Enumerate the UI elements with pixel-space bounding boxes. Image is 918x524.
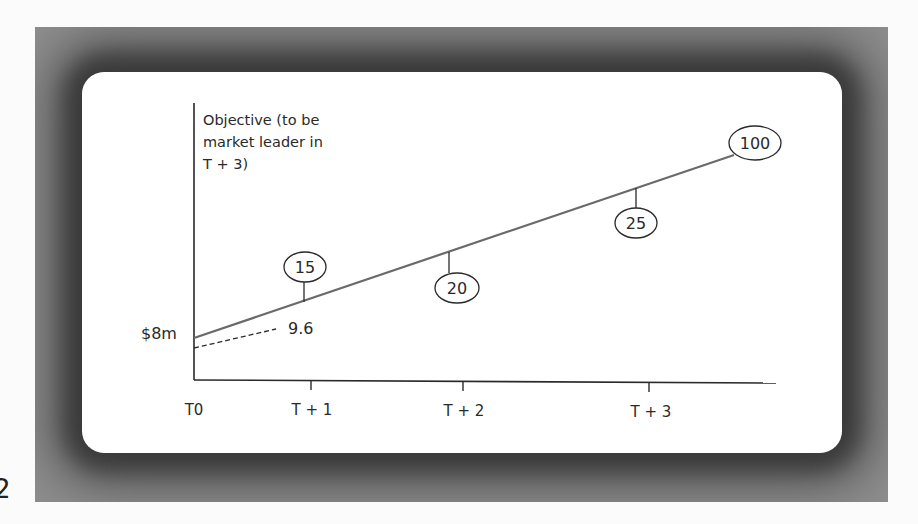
start-value-label: $8m	[141, 324, 177, 343]
actual-value-label: 9.6	[288, 319, 313, 338]
milestone-25-label: 25	[626, 214, 646, 233]
y-axis-label-line-1: Objective (to be	[203, 112, 319, 128]
y-axis-label-line-2: market leader in	[203, 134, 323, 150]
y-axis-label-line-3: T + 3)	[202, 156, 248, 172]
tick-label-t1: T + 1	[291, 401, 333, 419]
milestone-15-label: 15	[295, 258, 315, 277]
milestone-20-label: 20	[447, 279, 467, 298]
current-trend-line	[194, 329, 276, 348]
milestone-100-label: 100	[740, 134, 771, 153]
chart-svg: T0 T + 1 T + 2 T + 3 Objective (to be ma…	[0, 0, 918, 524]
objective-line	[194, 155, 734, 338]
tick-label-t0: T0	[184, 401, 204, 419]
x-axis	[194, 380, 776, 383]
tick-label-t2: T + 2	[443, 402, 485, 420]
tick-label-t3: T + 3	[630, 403, 672, 421]
